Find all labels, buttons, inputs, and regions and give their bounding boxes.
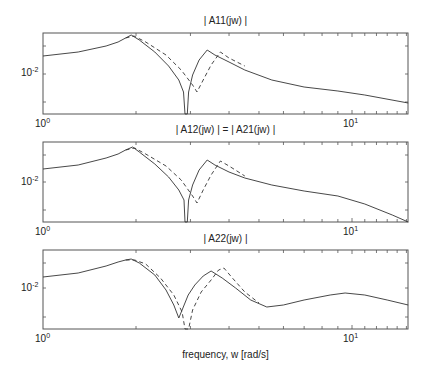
dashed-curve: [126, 260, 259, 329]
dashed-curve: [126, 148, 245, 203]
bode-plot-canvas: [0, 0, 428, 374]
dashed-curve: [126, 36, 245, 92]
solid-curve: [43, 259, 408, 318]
solid-curve: [43, 35, 408, 114]
axes-frame: [43, 33, 408, 114]
axes-frame: [43, 250, 408, 329]
panel-0: [43, 33, 408, 114]
panel-2: [43, 250, 408, 329]
solid-curve: [43, 147, 408, 222]
axes-frame: [43, 142, 408, 222]
panel-1: [43, 142, 408, 222]
